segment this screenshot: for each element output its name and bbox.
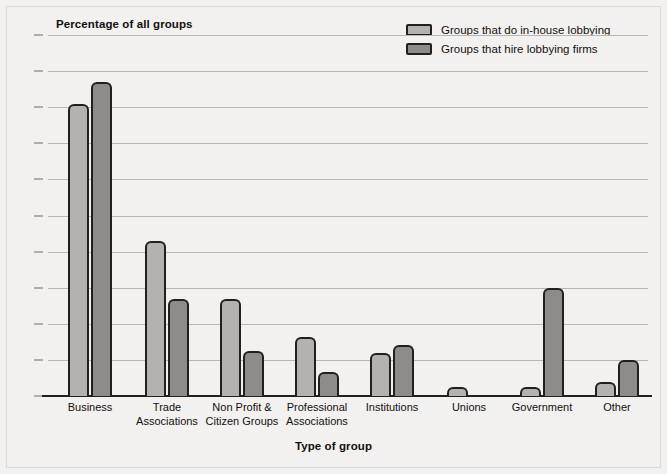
y-axis-tick-mark xyxy=(34,215,43,216)
bar-group xyxy=(220,35,264,396)
chart-title: Percentage of all groups xyxy=(56,18,193,30)
x-axis-labels: BusinessTradeAssociationsNon Profit &Cit… xyxy=(48,401,648,441)
y-axis-tick-mark xyxy=(34,107,43,108)
bar[interactable] xyxy=(243,351,264,396)
bar[interactable] xyxy=(520,387,541,396)
bar[interactable] xyxy=(393,345,414,396)
y-axis-tick-mark xyxy=(34,71,43,72)
x-axis-category-label: Other xyxy=(567,401,667,415)
y-axis-tick-mark xyxy=(34,323,43,324)
bar-group xyxy=(295,35,339,396)
bar-group xyxy=(370,35,414,396)
bar-group xyxy=(520,35,564,396)
y-axis-tick-mark xyxy=(34,143,43,144)
x-axis-category-label-line: Other xyxy=(567,401,667,415)
bar[interactable] xyxy=(145,241,166,396)
y-axis-tick-mark xyxy=(34,251,43,252)
bar-group xyxy=(145,35,189,396)
y-axis-tick-mark xyxy=(34,287,43,288)
y-axis-tick-mark xyxy=(34,35,43,36)
bar[interactable] xyxy=(68,104,89,396)
bar[interactable] xyxy=(295,337,316,396)
x-axis-title: Type of group xyxy=(0,440,667,452)
bar[interactable] xyxy=(447,387,468,396)
x-axis-category-label-line: Associations xyxy=(267,415,368,429)
bar-chart: Percentage of all groups Groups that do … xyxy=(0,0,667,474)
bar[interactable] xyxy=(618,360,639,396)
bar[interactable] xyxy=(595,382,616,396)
y-axis-tick-mark xyxy=(34,359,43,360)
y-axis-tick-mark xyxy=(34,179,43,180)
bar-group xyxy=(595,35,639,396)
bar[interactable] xyxy=(370,353,391,396)
bars-layer xyxy=(48,35,648,396)
bar[interactable] xyxy=(168,299,189,396)
bar[interactable] xyxy=(91,82,112,396)
bar-group xyxy=(68,35,112,396)
bar[interactable] xyxy=(220,299,241,396)
bar[interactable] xyxy=(318,372,339,396)
bar-group xyxy=(447,35,491,396)
bar[interactable] xyxy=(543,288,564,396)
